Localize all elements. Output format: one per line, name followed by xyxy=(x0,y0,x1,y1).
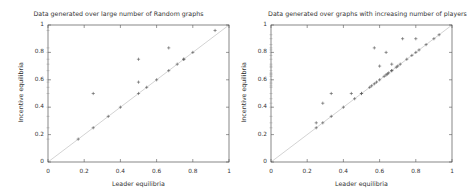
data-point-plus-marker xyxy=(390,63,393,66)
y-tick-label: 1 xyxy=(253,21,267,27)
plot-area xyxy=(237,0,474,195)
y-tick-label: 0.2 xyxy=(30,131,44,137)
y-axis-label: Incentive equilibria xyxy=(240,63,247,123)
data-point-plus-marker xyxy=(92,92,95,95)
x-tick-label: 1 xyxy=(446,168,458,174)
data-point-plus-marker xyxy=(385,51,388,54)
x-tick-label: 0.6 xyxy=(151,168,163,174)
y-axis-label: Incentive equilibria xyxy=(17,63,24,123)
y-tick-label: 0 xyxy=(253,158,267,164)
data-point-plus-marker xyxy=(315,121,318,124)
data-point-plus-marker xyxy=(137,58,140,61)
x-tick-label: 0.4 xyxy=(337,168,349,174)
data-point-plus-marker xyxy=(373,46,376,49)
x-tick-label: 0.8 xyxy=(410,168,422,174)
x-tick-label: 0.2 xyxy=(78,168,90,174)
plot-area xyxy=(0,0,237,195)
data-point-plus-marker xyxy=(414,37,417,40)
y-tick-label: 0 xyxy=(30,158,44,164)
x-tick-label: 1 xyxy=(223,168,235,174)
data-point-plus-marker xyxy=(137,81,140,84)
scatter-chart-random-graphs: Data generated over large number of Rand… xyxy=(0,0,237,195)
data-point-plus-marker xyxy=(401,37,404,40)
x-tick-label: 0 xyxy=(265,168,277,174)
y-tick-label: 1 xyxy=(30,21,44,27)
x-axis-label: Leader equilibria xyxy=(48,180,229,187)
x-tick-label: 0 xyxy=(42,168,54,174)
y-tick-label: 0.4 xyxy=(30,103,44,109)
data-point-plus-marker xyxy=(378,65,381,68)
y-tick-label: 0.8 xyxy=(30,48,44,54)
data-point-plus-marker xyxy=(213,29,216,32)
data-point-plus-marker xyxy=(330,92,333,95)
data-point-plus-marker xyxy=(350,92,353,95)
x-axis-label: Leader equilibria xyxy=(271,180,452,187)
data-point-plus-marker xyxy=(167,46,170,49)
y-tick-label: 0.8 xyxy=(253,48,267,54)
y-tick-label: 0.4 xyxy=(253,103,267,109)
y-tick-label: 0.6 xyxy=(30,76,44,82)
x-tick-label: 0.2 xyxy=(301,168,313,174)
x-tick-label: 0.8 xyxy=(187,168,199,174)
scatter-chart-increasing-players: Data generated over graphs with increasi… xyxy=(237,0,474,195)
y-tick-label: 0.2 xyxy=(253,131,267,137)
x-tick-label: 0.6 xyxy=(374,168,386,174)
x-tick-label: 0.4 xyxy=(114,168,126,174)
y-tick-label: 0.6 xyxy=(253,76,267,82)
data-point-plus-marker xyxy=(321,102,324,105)
